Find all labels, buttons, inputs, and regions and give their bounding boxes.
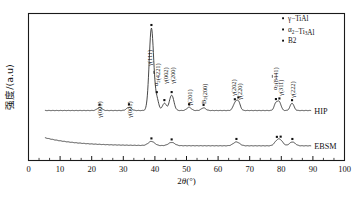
legend-marker-3 bbox=[282, 40, 284, 42]
peak-label-part: γ(220) bbox=[236, 83, 244, 101]
phase-marker bbox=[150, 137, 152, 139]
legend-marker-2 bbox=[282, 29, 284, 31]
peak-label-group: γ(200) bbox=[169, 67, 177, 85]
peak-label: α2(4221) bbox=[152, 63, 161, 86]
peak-label-part: γ(222) bbox=[289, 81, 297, 99]
x-tick-label: 50 bbox=[182, 164, 191, 174]
peak-label-part: γ(311) bbox=[277, 80, 285, 97]
phase-marker bbox=[280, 136, 282, 138]
x-tick-label: 20 bbox=[87, 164, 96, 174]
legend-text-part: γ−TiAl bbox=[287, 15, 309, 23]
peak-label: γ(001) bbox=[126, 101, 134, 119]
peak-label-group: γ(220) bbox=[236, 83, 244, 101]
peak-label: B2(200) bbox=[200, 84, 209, 104]
legend-label-2: α2−Ti3Al bbox=[288, 26, 314, 37]
peak-label-part: γ(001) bbox=[96, 101, 104, 119]
legend-marker-1 bbox=[282, 17, 284, 19]
x-tick-label: 60 bbox=[214, 164, 223, 174]
xrd-chart-svg: 01020304050607080901002θ(°)强度/(a.u)HIPEB… bbox=[0, 0, 356, 201]
x-tick-label: 100 bbox=[338, 164, 351, 174]
peak-label-part: γ(111) bbox=[146, 50, 154, 67]
phase-marker bbox=[171, 138, 173, 140]
peak-label-group: γ(222) bbox=[289, 81, 297, 99]
curve-label-hip: HIP bbox=[314, 107, 328, 116]
x-tick-label: 70 bbox=[245, 164, 254, 174]
x-tick-label: 80 bbox=[277, 164, 286, 174]
legend-text-part: −Ti bbox=[294, 28, 304, 36]
y-axis-title: 强度/(a.u) bbox=[4, 64, 15, 109]
peak-label-group: γ(201) bbox=[186, 89, 194, 107]
peak-label-part: γ(201) bbox=[186, 89, 194, 107]
peak-label-part: γ(001) bbox=[126, 101, 134, 119]
peak-label: γ(311) bbox=[277, 80, 285, 97]
legend: γ−TiAlα2−Ti3AlB2 bbox=[277, 13, 339, 50]
phase-marker bbox=[171, 91, 173, 93]
peak-label: γ(220) bbox=[236, 83, 244, 101]
phase-marker bbox=[150, 24, 152, 26]
curve-ebsm bbox=[45, 138, 311, 146]
peak-label-group: γ(001) bbox=[126, 101, 134, 119]
phase-marker bbox=[278, 97, 280, 99]
peak-label: γ(001) bbox=[96, 101, 104, 119]
phase-marker bbox=[235, 138, 237, 140]
x-tick-label: 0 bbox=[26, 164, 30, 174]
phase-marker bbox=[163, 99, 165, 101]
peak-label-part: γ(002) bbox=[162, 67, 170, 85]
peak-label: γ(201) bbox=[186, 89, 194, 107]
x-axis-title: 2θ(°) bbox=[177, 176, 196, 186]
x-tick-label: 40 bbox=[151, 164, 160, 174]
peak-label-part: (4221) bbox=[154, 63, 162, 80]
peak-label-group: γ(001) bbox=[96, 101, 104, 119]
peak-label-part: γ(200) bbox=[169, 67, 177, 85]
phase-marker bbox=[291, 138, 293, 140]
peak-label: γ(200) bbox=[169, 67, 177, 85]
legend-label-1: γ−TiAl bbox=[287, 15, 309, 23]
x-tick-label: 10 bbox=[56, 164, 65, 174]
peak-label-group: γ(311) bbox=[277, 80, 285, 97]
x-axis-title-post: (°) bbox=[186, 176, 196, 186]
peak-label-group: γ(111) bbox=[146, 50, 154, 67]
xrd-figure: 01020304050607080901002θ(°)强度/(a.u)HIPEB… bbox=[0, 0, 356, 201]
peak-label-group: B2(200) bbox=[200, 84, 209, 104]
legend-label-3: B2 bbox=[288, 37, 297, 45]
legend-text-part: Al bbox=[307, 29, 314, 37]
peak-label: γ(222) bbox=[289, 81, 297, 99]
x-tick-label: 90 bbox=[309, 164, 318, 174]
peak-labels-group: γ(001)γ(001)γ(111)α2(4221)γ(002)γ(200)γ(… bbox=[96, 50, 297, 119]
curve-label-ebsm: EBSM bbox=[314, 142, 337, 151]
phase-marker bbox=[275, 98, 277, 100]
x-tick-label: 30 bbox=[119, 164, 128, 174]
legend-text-part: B2 bbox=[288, 37, 297, 45]
phase-marker bbox=[291, 99, 293, 101]
peak-label-group: γ(002) bbox=[162, 67, 170, 85]
phase-marker bbox=[156, 91, 158, 93]
peak-label: γ(111) bbox=[146, 50, 154, 67]
peak-label-group: α2(4221) bbox=[152, 63, 161, 86]
peak-label: γ(002) bbox=[162, 67, 170, 85]
peak-label-part: (200) bbox=[201, 84, 209, 98]
phase-marker bbox=[276, 136, 278, 138]
